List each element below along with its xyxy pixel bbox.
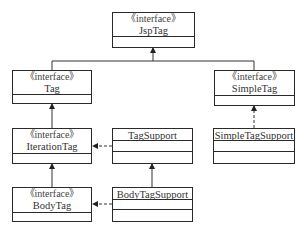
class-name: IterationTag — [26, 141, 77, 153]
attributes-section — [113, 141, 192, 152]
class-header: BodyTagSupport — [113, 188, 192, 200]
class-box-tag: 《interface》 Tag — [12, 70, 92, 104]
stereotype-label: 《interface》 — [126, 13, 181, 25]
class-box-tagsupport: TagSupport — [112, 128, 193, 164]
class-header: SimpleTagSupport — [214, 129, 294, 141]
class-name: SimpleTagSupport — [215, 130, 294, 142]
class-name: Tag — [44, 83, 60, 95]
class-header: 《interface》 Tag — [13, 71, 91, 95]
class-name: BodyTagSupport — [117, 189, 189, 201]
class-header: 《interface》 BodyTag — [13, 188, 91, 213]
class-name: BodyTag — [33, 200, 71, 212]
class-header: 《interface》 IterationTag — [13, 129, 91, 154]
attributes-section — [214, 141, 294, 152]
stereotype-label: 《interface》 — [25, 188, 80, 200]
attributes-section — [215, 96, 294, 105]
methods-section — [113, 152, 192, 162]
class-box-bodytag: 《interface》 BodyTag — [12, 187, 92, 222]
attributes-section — [13, 213, 91, 221]
stereotype-label: 《interface》 — [227, 71, 282, 83]
class-box-simpletag: 《interface》 SimpleTag — [214, 70, 295, 106]
class-name: SimpleTag — [232, 83, 277, 95]
class-box-bodytagsupport: BodyTagSupport — [112, 187, 193, 222]
attributes-section — [113, 200, 192, 210]
methods-section — [214, 152, 294, 162]
attributes-section — [113, 37, 194, 47]
stereotype-label: 《interface》 — [25, 71, 80, 83]
attributes-section — [13, 95, 91, 103]
edge-tag-simpletag-to-jsptag — [52, 61, 254, 70]
class-header: TagSupport — [113, 129, 192, 141]
attributes-section — [13, 154, 91, 163]
class-name: TagSupport — [128, 130, 177, 142]
class-header: 《interface》 JspTag — [113, 13, 194, 37]
class-box-iterationtag: 《interface》 IterationTag — [12, 128, 92, 164]
class-box-simpletagsupport: SimpleTagSupport — [213, 128, 295, 164]
class-header: 《interface》 SimpleTag — [215, 71, 294, 96]
class-box-jsptag: 《interface》 JspTag — [112, 12, 195, 48]
class-name: JspTag — [139, 25, 168, 37]
methods-section — [113, 210, 192, 220]
stereotype-label: 《interface》 — [25, 129, 80, 141]
